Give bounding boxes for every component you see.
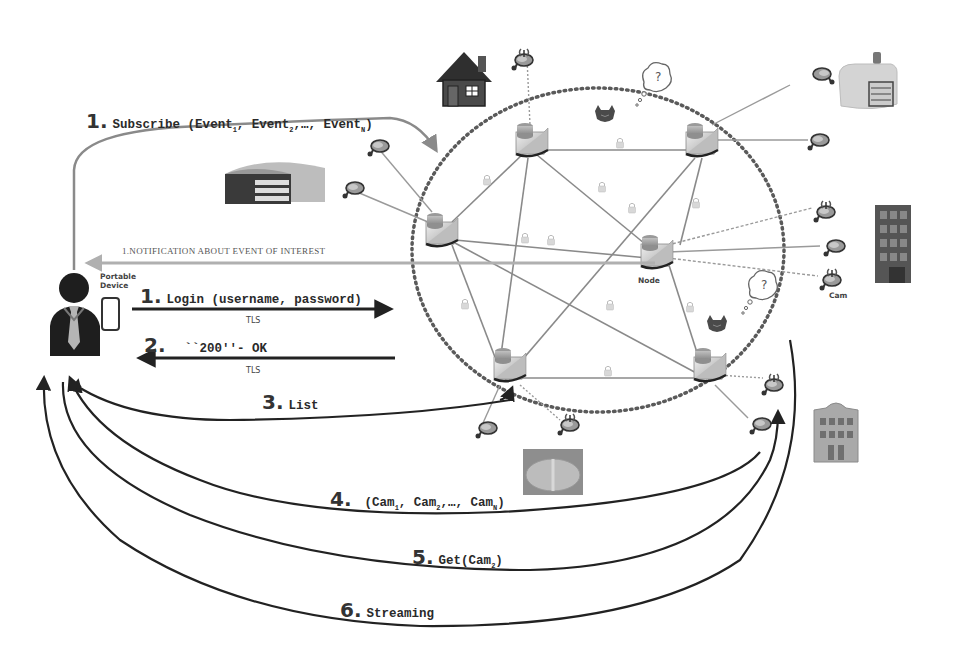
attacker-icon [707,315,727,332]
login-tls-label: TLS [246,316,260,325]
townhouse-icon [814,403,858,462]
server-node-icon [494,348,526,381]
camera-icon [368,140,390,157]
list-label: 3. List [262,390,319,414]
smartphone-icon [102,298,119,330]
subscribe-label: 1. Subscribe (Event1, Event2,…, EventN) [86,109,373,134]
ok-label: 2. ``200''- OK [144,333,267,357]
camera-icon [820,269,842,291]
cameras [343,49,846,439]
streaming-arrow [44,340,795,626]
camera-icon [813,68,835,85]
camera-icon [814,201,836,223]
factory-icon [839,52,897,109]
businessman-icon [50,273,100,356]
node-label: Node [638,276,660,285]
attacker-icon [595,105,615,122]
stadium-icon [523,449,583,495]
cam-list-label: 4. (Cam1, Cam2,…, CamN) [330,487,505,512]
login-label: 1. Login (username, password) [140,284,362,308]
camera-icon [762,374,784,396]
notification-label: 1.NOTIFICATION ABOUT EVENT OF INTEREST [122,246,325,256]
server-node-icon [694,348,726,381]
camera-icon [750,418,772,435]
get-camera-label: 5. Get(Cam2) [412,545,503,570]
server-node-icon [686,123,718,156]
camera-icon [476,422,498,439]
server-node-icon [426,213,458,246]
ok-tls-label: TLS [246,366,260,375]
camera-icon [512,49,534,71]
cam-label: Cam [829,291,847,300]
house-icon [436,52,492,106]
camera-icon [558,414,580,436]
camera-icon [824,240,846,257]
camera-icon [808,134,830,151]
camera-icon [343,182,365,199]
warehouse-icon [225,162,325,204]
office-tower-icon [875,205,911,283]
streaming-label: 6. Streaming [340,598,434,622]
subscribe-text: Subscribe (Event1, Event2,…, EventN) [113,118,373,132]
device-label: Portable Device [100,272,136,290]
server-node-icon [516,123,548,156]
